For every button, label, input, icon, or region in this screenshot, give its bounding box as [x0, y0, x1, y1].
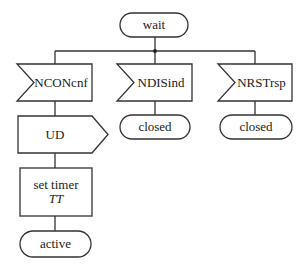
task-set-timer-label: set timer: [20, 177, 92, 192]
input-ndisind-label: NDISind: [130, 75, 192, 90]
input-nrstrsp-label: NRSTrsp: [231, 75, 292, 90]
junction-dot: [153, 49, 157, 53]
task-timer-name: TT: [20, 191, 92, 206]
state-closed-2-label: closed: [220, 119, 292, 134]
input-nconcnf-label: NCONcnf: [30, 75, 92, 90]
output-ud-label: UD: [18, 127, 92, 142]
state-closed-1-label: closed: [120, 119, 190, 134]
state-active-label: active: [20, 236, 91, 251]
state-wait-label: wait: [120, 17, 188, 32]
